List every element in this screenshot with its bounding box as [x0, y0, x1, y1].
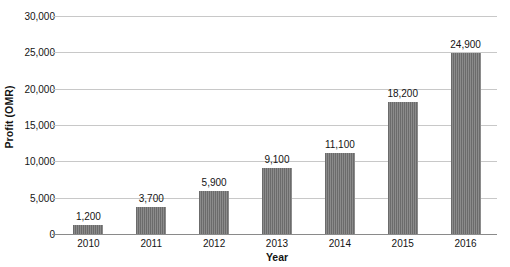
x-axis-tick-label: 2016 [434, 238, 497, 249]
bar-group[interactable]: 11,100 [308, 16, 371, 234]
x-axis-tick-label: 2012 [183, 238, 246, 249]
bar-value-label: 18,200 [387, 88, 418, 99]
bar[interactable] [73, 225, 103, 234]
bar[interactable] [325, 153, 355, 234]
bar-value-label: 3,700 [139, 193, 164, 204]
x-axis-tick-label: 2015 [371, 238, 434, 249]
y-axis-tick-label: 30,000 [24, 11, 55, 22]
bars-layer: 1,2003,7005,9009,10011,10018,20024,900 [57, 16, 497, 234]
bar-value-label: 24,900 [450, 39, 481, 50]
bar[interactable] [262, 168, 292, 234]
bar[interactable] [451, 53, 481, 234]
y-axis-tick-label: 25,000 [24, 47, 55, 58]
bar-group[interactable]: 18,200 [371, 16, 434, 234]
bar[interactable] [388, 102, 418, 234]
bar-value-label: 11,100 [325, 139, 355, 150]
bar-value-label: 9,100 [264, 154, 289, 165]
y-axis-tick-label: 15,000 [24, 120, 55, 131]
bar-group[interactable]: 9,100 [246, 16, 309, 234]
y-axis-tick-label: 20,000 [24, 83, 55, 94]
x-axis-title: Year [57, 251, 497, 263]
axis-baseline [52, 234, 497, 235]
x-axis-tick-labels: 2010201120122013201420152016 [57, 238, 497, 252]
x-axis-tick-label: 2010 [57, 238, 120, 249]
plot-area: 1,2003,7005,9009,10011,10018,20024,900 [57, 16, 497, 234]
bar-group[interactable]: 5,900 [183, 16, 246, 234]
x-axis-tick-label: 2011 [120, 238, 183, 249]
x-axis-tick-label: 2013 [246, 238, 309, 249]
bar-chart: Profit (OMR) 05,00010,00015,00020,00025,… [0, 0, 510, 267]
bar-group[interactable]: 24,900 [434, 16, 497, 234]
y-axis-tick-label: 10,000 [24, 156, 55, 167]
bar-group[interactable]: 3,700 [120, 16, 183, 234]
bar[interactable] [199, 191, 229, 234]
bar-group[interactable]: 1,200 [57, 16, 120, 234]
bar-value-label: 1,200 [76, 211, 101, 222]
x-axis-tick-label: 2014 [308, 238, 371, 249]
bar-value-label: 5,900 [202, 177, 227, 188]
y-axis-tick-labels: 05,00010,00015,00020,00025,00030,000 [14, 0, 55, 245]
bar[interactable] [136, 207, 166, 234]
